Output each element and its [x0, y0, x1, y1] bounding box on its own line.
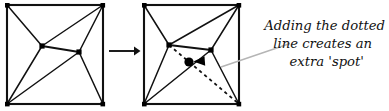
annotation-line-2: line creates an	[273, 36, 372, 51]
diagram-canvas: Adding the dotted line creates an extra …	[0, 0, 389, 111]
annotation-line-3: extra 'spot'	[289, 54, 364, 69]
left-graph-corner-topleft	[5, 3, 10, 8]
right-graph-new-spot-node	[184, 57, 193, 66]
annotation-line-1: Adding the dotted	[263, 18, 385, 33]
right-graph-node-right	[208, 47, 213, 52]
right-graph-corner-bottomleft	[142, 102, 147, 107]
right-graph-corner-topleft	[142, 3, 147, 8]
right-graph-corner-topright	[237, 3, 242, 8]
left-graph-corner-bottomright	[101, 102, 106, 107]
left-graph-node-right	[76, 49, 81, 54]
left-graph-corner-bottomleft	[5, 102, 10, 107]
right-graph-node-left	[166, 42, 171, 47]
right-graph-corner-bottomright	[237, 102, 242, 107]
left-graph-node-left	[39, 43, 44, 48]
left-graph-corner-topright	[101, 3, 106, 8]
diagram-figure: Adding the dotted line creates an extra …	[0, 0, 389, 111]
